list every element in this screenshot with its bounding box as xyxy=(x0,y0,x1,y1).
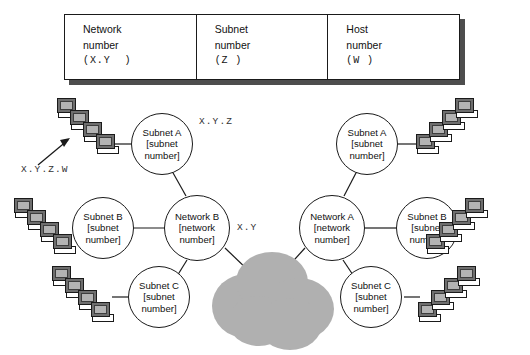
computer-screen xyxy=(30,213,43,222)
computer-cluster-left-subnet-a[interactable] xyxy=(57,98,58,99)
annotation-network-address: X.Y xyxy=(237,222,257,233)
node-right-subnet-b-line2: [subnet xyxy=(411,222,442,233)
node-left-subnet-c[interactable]: Subnet C [subnet number] xyxy=(128,266,190,328)
computer-screen xyxy=(468,201,481,210)
node-right-network-a-line2: [network xyxy=(314,222,350,233)
node-left-subnet-c-line2: [subnet xyxy=(143,291,174,302)
computer-icon[interactable] xyxy=(455,98,479,119)
computer-cluster-left-subnet-c[interactable] xyxy=(52,266,53,267)
computer-cluster-right-subnet-c[interactable] xyxy=(418,266,419,267)
node-right-subnet-a-line1: Subnet A xyxy=(348,127,387,138)
node-left-subnet-b-line3: number] xyxy=(85,234,120,245)
node-left-subnet-b-line2: [subnet xyxy=(87,222,118,233)
node-right-network-a[interactable]: Network A [network number] xyxy=(299,195,365,261)
computer-cluster-right-subnet-b[interactable] xyxy=(426,198,427,199)
computer-icon[interactable] xyxy=(96,134,120,155)
computer-cluster-left-subnet-b[interactable] xyxy=(14,198,15,199)
computer-screen xyxy=(99,137,112,146)
annotation-subnet-address: X.Y.Z xyxy=(199,116,233,127)
node-right-subnet-a[interactable]: Subnet A [subnet number] xyxy=(336,113,398,175)
computer-screen xyxy=(460,269,473,278)
computer-screen xyxy=(55,269,68,278)
computer-monitor xyxy=(457,266,476,281)
node-right-subnet-a-line3: number] xyxy=(349,150,384,161)
node-left-subnet-c-line3: number] xyxy=(141,303,176,314)
node-right-network-a-line1: Network A xyxy=(310,211,354,222)
node-left-network-b-line1: Network B xyxy=(175,211,219,222)
computer-icon[interactable] xyxy=(53,234,77,255)
computer-screen xyxy=(17,201,30,210)
computer-screen xyxy=(94,305,107,314)
computer-monitor xyxy=(53,234,72,249)
computer-monitor xyxy=(465,198,484,213)
internet-cloud xyxy=(206,250,334,350)
computer-screen xyxy=(43,225,56,234)
node-left-network-b-line3: number] xyxy=(179,234,214,245)
computer-screen xyxy=(73,113,86,122)
node-left-subnet-a-line3: number] xyxy=(144,150,179,161)
computer-icon[interactable] xyxy=(457,266,481,287)
node-right-network-a-line3: number] xyxy=(314,234,349,245)
computer-monitor xyxy=(96,134,115,149)
computer-monitor xyxy=(91,302,110,317)
node-right-subnet-c[interactable]: Subnet C [subnet number] xyxy=(340,266,402,328)
node-left-subnet-b-line1: Subnet B xyxy=(83,211,122,222)
node-right-subnet-c-line1: Subnet C xyxy=(351,280,391,291)
computer-monitor xyxy=(455,98,474,113)
computer-screen xyxy=(86,125,99,134)
computer-screen xyxy=(81,293,94,302)
node-left-subnet-c-line1: Subnet C xyxy=(139,280,179,291)
node-right-subnet-a-line2: [subnet xyxy=(351,138,382,149)
link-right-subnetA-network xyxy=(344,171,357,196)
topology-diagram: Subnet A [subnet number] Network B [netw… xyxy=(0,0,530,355)
node-right-subnet-c-line3: number] xyxy=(353,303,388,314)
node-left-network-b-line2: [network xyxy=(179,222,215,233)
node-left-subnet-b[interactable]: Subnet B [subnet number] xyxy=(72,197,134,259)
computer-cluster-right-subnet-a[interactable] xyxy=(416,98,417,99)
computer-screen xyxy=(458,101,471,110)
computer-screen xyxy=(56,237,69,246)
computer-icon[interactable] xyxy=(91,302,115,323)
annotation-host-address: X.Y.Z.W xyxy=(21,164,69,175)
node-right-subnet-c-line2: [subnet xyxy=(355,291,386,302)
node-left-subnet-a-line2: [subnet xyxy=(146,138,177,149)
link-left-subnetA-network xyxy=(172,171,186,196)
node-left-subnet-a-line1: Subnet A xyxy=(143,127,182,138)
host-address-arrow xyxy=(38,138,70,165)
node-right-subnet-b-line1: Subnet B xyxy=(407,211,446,222)
computer-screen xyxy=(60,101,73,110)
node-left-network-b[interactable]: Network B [network number] xyxy=(164,195,230,261)
node-left-subnet-a[interactable]: Subnet A [subnet number] xyxy=(131,113,193,175)
computer-icon[interactable] xyxy=(465,198,489,219)
computer-screen xyxy=(68,281,81,290)
network-subnet-diagram-page: Network number (X.Y ) Subnet number (Z )… xyxy=(0,0,530,355)
